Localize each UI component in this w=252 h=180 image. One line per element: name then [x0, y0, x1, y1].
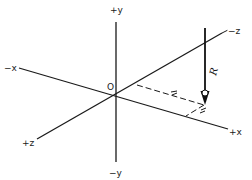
- dim-label-along-z: [200, 108, 206, 113]
- label-pos-y: +y: [110, 5, 124, 15]
- dim-label-along-x: [171, 91, 177, 95]
- dim-line-along-z: [186, 105, 204, 116]
- coordinate-diagram: +y −y −x +x −z +z O R: [0, 0, 252, 180]
- arrow-ring: [202, 90, 208, 96]
- label-pos-z: +z: [22, 138, 35, 148]
- label-neg-x: −x: [4, 63, 18, 73]
- x-axis: [19, 68, 228, 129]
- dim-line-along-x: [137, 85, 204, 105]
- label-origin: O: [107, 82, 114, 92]
- label-neg-z: −z: [228, 26, 241, 36]
- label-neg-y: −y: [109, 168, 123, 178]
- label-force-r: R: [207, 66, 220, 78]
- label-pos-x: +x: [229, 127, 243, 137]
- z-axis: [37, 33, 222, 139]
